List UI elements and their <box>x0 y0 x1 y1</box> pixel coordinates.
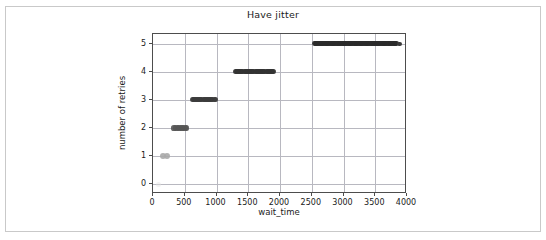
x-axis-tick-label: 1000 <box>205 198 225 207</box>
y-axis-tick-label: 1 <box>141 151 146 160</box>
scatter-point <box>184 125 189 130</box>
gridline-horizontal <box>153 128 405 129</box>
x-axis-tick <box>343 193 344 196</box>
gridline-vertical <box>185 34 186 192</box>
y-axis-tick <box>149 71 152 72</box>
scatter-point <box>271 69 276 74</box>
chart-title: Have jitter <box>6 9 540 20</box>
x-axis-tick-label: 500 <box>176 198 191 207</box>
gridline-horizontal <box>153 184 405 185</box>
gridline-horizontal <box>153 72 405 73</box>
scatter-point <box>164 153 170 159</box>
y-axis-tick-label: 0 <box>141 179 146 188</box>
gridline-vertical <box>375 34 376 192</box>
x-axis-tick <box>247 193 248 196</box>
x-axis-tick <box>184 193 185 196</box>
x-axis-label: wait_time <box>152 207 406 217</box>
x-axis-tick-label: 3000 <box>332 198 352 207</box>
x-axis-tick <box>279 193 280 196</box>
plot-area <box>152 33 406 193</box>
y-axis-tick-label: 3 <box>141 95 146 104</box>
x-axis-tick-label: 0 <box>149 198 154 207</box>
gridline-vertical <box>248 34 249 192</box>
y-axis-tick <box>149 183 152 184</box>
x-axis-tick-label: 4000 <box>396 198 416 207</box>
gridline-horizontal <box>153 156 405 157</box>
y-axis-tick-label: 4 <box>141 66 146 75</box>
x-axis-tick-label: 2500 <box>301 198 321 207</box>
x-axis-tick <box>216 193 217 196</box>
chart-figure: Have jitter 0500100015002000250030003500… <box>5 6 541 232</box>
scatter-point <box>156 182 161 187</box>
x-axis-tick <box>152 193 153 196</box>
x-axis-tick <box>311 193 312 196</box>
x-axis-tick <box>374 193 375 196</box>
x-axis-tick-label: 1500 <box>237 198 257 207</box>
y-axis-tick <box>149 127 152 128</box>
gridline-vertical <box>312 34 313 192</box>
y-axis-tick <box>149 155 152 156</box>
y-axis-tick-label: 5 <box>141 38 146 47</box>
y-axis-tick <box>149 43 152 44</box>
x-axis-tick <box>406 193 407 196</box>
gridline-vertical <box>280 34 281 192</box>
y-axis-tick-label: 2 <box>141 123 146 132</box>
scatter-point-outlier <box>397 42 401 46</box>
gridline-vertical <box>344 34 345 192</box>
gridline-vertical <box>217 34 218 192</box>
y-axis-tick <box>149 99 152 100</box>
x-axis-tick-label: 3500 <box>364 198 384 207</box>
x-axis-tick-label: 2000 <box>269 198 289 207</box>
y-axis-label: number of retries <box>117 76 127 150</box>
